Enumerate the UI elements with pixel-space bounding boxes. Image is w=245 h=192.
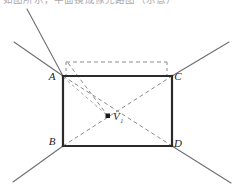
- dashed-rectangle-group: [66, 62, 167, 76]
- figure-canvas: A B C D V 1: [0, 0, 245, 192]
- vertex-label-group: A B C D V 1: [48, 70, 183, 149]
- ray-a-upper-right: [27, 9, 63, 76]
- dot-v: [106, 114, 111, 119]
- ray-group: [13, 9, 231, 183]
- vertex-dot-group: [106, 114, 111, 119]
- label-c: C: [174, 70, 182, 82]
- label-v-subscript: 1: [120, 117, 124, 125]
- ray-d-lower-right: [172, 146, 231, 183]
- label-d: D: [173, 137, 182, 149]
- label-b: B: [49, 135, 56, 147]
- label-a: A: [48, 70, 56, 82]
- ray-b-lower-left: [13, 146, 63, 182]
- figure-caption-text: 如图所示，平面镜成像光路图（示意）: [3, 0, 176, 6]
- ray-a-upper-left: [14, 42, 63, 76]
- geometry-figure: A B C D V 1: [0, 0, 245, 192]
- figure-caption-strip: 如图所示，平面镜成像光路图（示意）: [0, 0, 245, 7]
- dashed-corner-to-v: [68, 63, 108, 116]
- dashed-a-to-v: [63, 77, 108, 116]
